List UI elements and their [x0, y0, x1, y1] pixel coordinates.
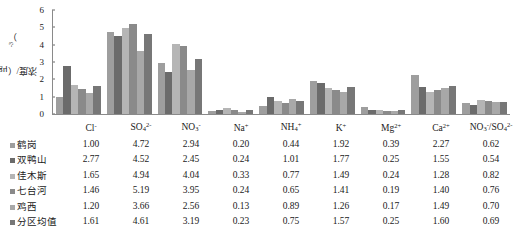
table-cell-value: 0.33: [216, 168, 266, 184]
bar: [376, 110, 383, 114]
table-cell-value: 2.77: [66, 152, 116, 168]
legend-item[interactable]: 七台河: [0, 183, 66, 199]
table-cell-value: 1.49: [416, 199, 466, 215]
table-header-row: Cl-SO42-NO3-Na+NH4+K+Mg2+Ca2+NO3-/SO42-: [0, 117, 516, 137]
bar: [78, 89, 85, 114]
bar-group: [408, 10, 459, 114]
table-cell-value: 0.75: [266, 214, 316, 230]
table-cell-value: 3.95: [166, 183, 216, 199]
table-cell-value: 1.61: [66, 214, 116, 230]
bar: [462, 103, 469, 114]
table-cell-value: 1.00: [66, 137, 116, 153]
table-cell-value: 1.65: [66, 168, 116, 184]
bar: [361, 107, 368, 114]
legend-item[interactable]: 分区均值: [0, 214, 66, 230]
bar-group: [358, 10, 409, 114]
table-row: 七台河1.465.193.950.240.651.410.191.400.76: [0, 183, 516, 199]
bar: [158, 63, 165, 114]
legend-item[interactable]: 鹤岗: [0, 137, 66, 153]
bar: [208, 111, 215, 114]
bar-group: [256, 10, 307, 114]
bar: [223, 108, 230, 114]
bar: [441, 88, 448, 114]
x-axis-line: [52, 114, 510, 115]
data-table: Cl-SO42-NO3-Na+NH4+K+Mg2+Ca2+NO3-/SO42- …: [0, 117, 516, 230]
table-cell-value: 0.20: [216, 137, 266, 153]
legend-item[interactable]: 佳木斯: [0, 168, 66, 184]
table-cell-value: 0.69: [466, 214, 516, 230]
y-axis-tick-label: 6: [40, 6, 45, 15]
bar: [368, 110, 375, 114]
bar: [246, 110, 253, 114]
bar: [172, 44, 179, 114]
bar: [56, 97, 63, 114]
table-cell-value: 4.52: [116, 152, 166, 168]
table-cell-value: 1.77: [316, 152, 366, 168]
chart-figure: 浓度/（μg·m-3） 0123456 Cl-SO42-NO3-Na+NH4+K…: [0, 0, 516, 242]
bar: [310, 81, 317, 114]
bar: [289, 99, 296, 114]
y-axis-tick-label: 4: [40, 40, 45, 49]
bar: [63, 66, 70, 114]
legend-swatch-icon: [10, 143, 15, 148]
bar: [398, 110, 405, 114]
table-column-header: SO42-: [116, 117, 166, 137]
bar: [332, 90, 339, 114]
table-cell-value: 0.25: [366, 152, 416, 168]
table-cell-value: 2.56: [166, 199, 216, 215]
table-cell-value: 1.60: [416, 214, 466, 230]
table-cell-value: 0.24: [216, 152, 266, 168]
table-cell-value: 1.26: [316, 199, 366, 215]
bar-group: [53, 10, 104, 114]
legend-item-label: 佳木斯: [17, 170, 47, 181]
table-cell-value: 0.82: [466, 168, 516, 184]
legend-swatch-icon: [10, 189, 15, 194]
table-corner-cell: [0, 117, 66, 137]
y-axis-label: 浓度/（μg·m-3）: [4, 14, 22, 114]
bar: [411, 75, 418, 114]
table-column-header: NO3-/SO42-: [466, 117, 516, 137]
legend-item-label: 分区均值: [17, 216, 57, 227]
table-cell-value: 1.01: [266, 152, 316, 168]
legend-swatch-icon: [10, 158, 15, 163]
bar: [347, 87, 354, 114]
table-cell-value: 0.65: [266, 183, 316, 199]
bar: [122, 28, 129, 114]
bar-group: [205, 10, 256, 114]
legend-item[interactable]: 鸡西: [0, 199, 66, 215]
table-cell-value: 1.55: [416, 152, 466, 168]
bar: [485, 101, 492, 114]
table-cell-value: 0.62: [466, 137, 516, 153]
table-cell-value: 1.49: [316, 168, 366, 184]
table-cell-value: 1.46: [66, 183, 116, 199]
bar: [231, 110, 238, 114]
legend-item-label: 鹤岗: [17, 139, 37, 150]
table-cell-value: 4.94: [116, 168, 166, 184]
bar-groups: [53, 10, 510, 114]
bar-group: [104, 10, 155, 114]
bar-group: [307, 10, 358, 114]
data-table-wrap: Cl-SO42-NO3-Na+NH4+K+Mg2+Ca2+NO3-/SO42- …: [0, 117, 516, 242]
legend-item-label: 双鸭山: [17, 154, 47, 165]
legend-item[interactable]: 双鸭山: [0, 152, 66, 168]
bar-group: [459, 10, 510, 114]
table-row: 鸡西1.203.662.560.130.891.260.171.490.70: [0, 199, 516, 215]
y-axis-tick-label: 3: [40, 58, 45, 67]
table-cell-value: 0.19: [366, 183, 416, 199]
table-cell-value: 2.94: [166, 137, 216, 153]
bar: [282, 103, 289, 114]
table-cell-value: 1.92: [316, 137, 366, 153]
bar: [107, 32, 114, 114]
bar: [477, 100, 484, 114]
table-cell-value: 0.25: [366, 214, 416, 230]
bar: [470, 105, 477, 114]
table-cell-value: 3.19: [166, 214, 216, 230]
bar: [165, 72, 172, 114]
table-cell-value: 4.61: [116, 214, 166, 230]
table-column-header: Ca2+: [416, 117, 466, 137]
table-column-header: Cl-: [66, 117, 116, 137]
table-cell-value: 0.39: [366, 137, 416, 153]
bar: [419, 87, 426, 114]
table-column-header: Na+: [216, 117, 266, 137]
bar: [71, 85, 78, 114]
